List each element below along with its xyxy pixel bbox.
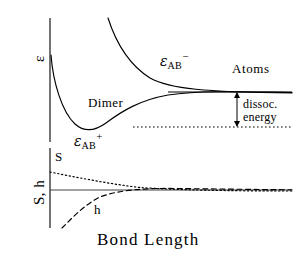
overlap-axis-label: S, h bbox=[32, 180, 48, 205]
diagram-canvas bbox=[0, 0, 294, 264]
x-axis-title: Bond Length bbox=[97, 231, 199, 249]
antibonding-curve bbox=[108, 18, 292, 93]
bonding-superscript: + bbox=[96, 130, 102, 142]
dissoc-energy-line1: dissoc. bbox=[243, 98, 277, 111]
energy-axis-label: ε bbox=[32, 56, 48, 62]
dimer-label: Dimer bbox=[88, 96, 123, 110]
energy-level-diagram-figure: ε S, h εAB− εAB+ Dimer Atoms dissoc. ene… bbox=[0, 0, 294, 264]
dissociation-energy-label: dissoc. energy bbox=[243, 98, 277, 123]
bonding-epsilon-symbol: ε bbox=[74, 133, 82, 149]
bonding-curve-label: εAB+ bbox=[74, 131, 102, 151]
dissoc-energy-line2: energy bbox=[243, 111, 277, 124]
overlap-S-label: S bbox=[55, 150, 62, 164]
antibonding-superscript: − bbox=[182, 50, 188, 62]
dissoc-energy-arrow bbox=[234, 92, 240, 127]
antibonding-epsilon-symbol: ε bbox=[160, 53, 168, 69]
antibonding-subscript: AB bbox=[168, 60, 183, 71]
atoms-label: Atoms bbox=[232, 62, 270, 76]
bonding-subscript: AB bbox=[82, 140, 97, 151]
antibonding-curve-label: εAB− bbox=[160, 51, 188, 71]
hopping-h-label: h bbox=[94, 203, 101, 217]
